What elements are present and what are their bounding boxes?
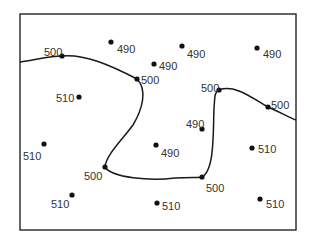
data-point-dot	[151, 61, 156, 66]
data-point-label: 510	[266, 198, 284, 210]
data-point-label: 500	[141, 74, 159, 86]
data-point-dot	[153, 142, 158, 147]
isoline-diagram: 5004905004904904905105005004905104905105…	[0, 0, 313, 240]
data-point-label: 490	[187, 48, 205, 60]
data-point-label: 510	[162, 200, 180, 212]
data-point-dot	[249, 145, 254, 150]
data-point-dot	[76, 94, 81, 99]
data-point-label: 500	[84, 170, 102, 182]
data-point-label: 490	[161, 147, 179, 159]
data-point-dot	[69, 192, 74, 197]
data-point-label: 510	[23, 150, 41, 162]
data-point-dot	[154, 200, 159, 205]
data-point-label: 510	[258, 143, 276, 155]
data-point-label: 510	[51, 198, 69, 210]
data-point-label: 500	[271, 99, 289, 111]
data-point-label: 500	[206, 182, 224, 194]
data-point-dot	[134, 76, 139, 81]
data-point-dot	[102, 164, 107, 169]
data-point-dot	[257, 196, 262, 201]
data-point-label: 490	[186, 118, 204, 130]
data-point-dot	[199, 174, 204, 179]
data-point-label: 510	[56, 92, 74, 104]
data-point-label: 490	[263, 48, 281, 60]
data-point-label: 490	[159, 60, 177, 72]
data-point-label: 500	[44, 46, 62, 58]
data-point-label: 490	[117, 43, 135, 55]
data-point-dot	[41, 141, 46, 146]
data-point-dot	[254, 45, 259, 50]
data-point-dot	[108, 39, 113, 44]
data-point-dot	[265, 104, 270, 109]
data-point-label: 500	[201, 82, 219, 94]
data-point-dot	[179, 43, 184, 48]
